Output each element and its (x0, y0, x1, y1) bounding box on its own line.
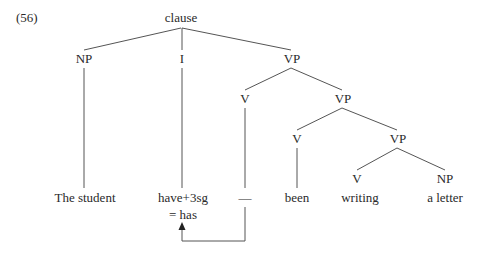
node-vp1: VP (284, 52, 301, 66)
tree-branches (0, 0, 480, 254)
node-vp3: VP (390, 132, 407, 146)
leaf-writing: writing (341, 191, 379, 205)
leaf-infl-result: = has (169, 208, 197, 222)
leaf-object: a letter (427, 191, 463, 205)
node-np-subject: NP (76, 52, 93, 66)
node-v1: V (240, 92, 249, 106)
leaf-been: been (285, 191, 310, 205)
node-v2: V (292, 132, 301, 146)
arrowhead-icon (179, 222, 186, 230)
node-vp2: VP (335, 92, 352, 106)
node-v3: V (352, 172, 361, 186)
node-clause: clause (165, 11, 197, 25)
node-infl: I (180, 52, 184, 66)
leaf-trace: — (239, 191, 252, 205)
leaf-subject: The student (54, 191, 115, 205)
leaf-infl-word: have+3sg (158, 191, 208, 205)
node-np-object: NP (437, 172, 454, 186)
example-number: (56) (16, 11, 38, 25)
